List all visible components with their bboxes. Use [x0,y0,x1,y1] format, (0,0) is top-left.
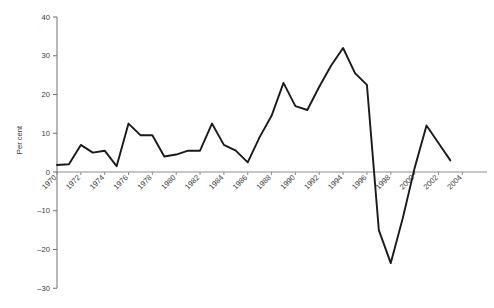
y-axis-title: Per cent [15,125,24,154]
y-axis-tick-label: 10 [42,129,50,138]
y-axis-tick-label: 40 [42,13,50,22]
y-axis-tick-label: –10 [37,206,50,215]
x-axis-tick-label: 2004 [445,173,463,191]
x-axis-tick-label: 1984 [207,173,225,191]
x-axis-tick-label: 1970 [40,173,58,191]
x-axis-tick-label: 1974 [88,173,106,191]
x-axis-tick-label: 1996 [350,173,368,191]
data-series-line [57,48,450,263]
x-axis-tick-label: 1988 [255,173,273,191]
x-axis-tick-label: 1982 [183,173,201,191]
x-axis-tick-label: 1980 [159,173,177,191]
y-axis-tick-label: 20 [42,90,50,99]
y-axis-tick-label: 30 [42,51,50,60]
y-axis-ticks [53,17,57,288]
y-axis-tick-labels: 403020100–10–20–30 [37,13,50,293]
chart-container: 403020100–10–20–30 197019721974197619781… [0,0,494,308]
x-axis-tick-label: 1990 [278,173,296,191]
line-chart: 403020100–10–20–30 197019721974197619781… [0,0,494,308]
y-axis-tick-label: –20 [37,245,50,254]
x-axis-tick-label: 1976 [112,173,130,191]
x-axis-tick-label: 1978 [135,173,153,191]
x-axis-tick-labels: 1970197219741976197819801982198419861988… [40,173,464,191]
y-axis-tick-label: –30 [37,284,50,293]
x-axis-tick-label: 1994 [326,173,344,191]
x-axis-tick-label: 1992 [302,173,320,191]
x-axis-tick-label: 1986 [231,173,249,191]
x-axis-tick-label: 1972 [64,173,82,191]
x-axis-tick-label: 2002 [422,173,440,191]
x-axis-tick-label: 1998 [374,173,392,191]
